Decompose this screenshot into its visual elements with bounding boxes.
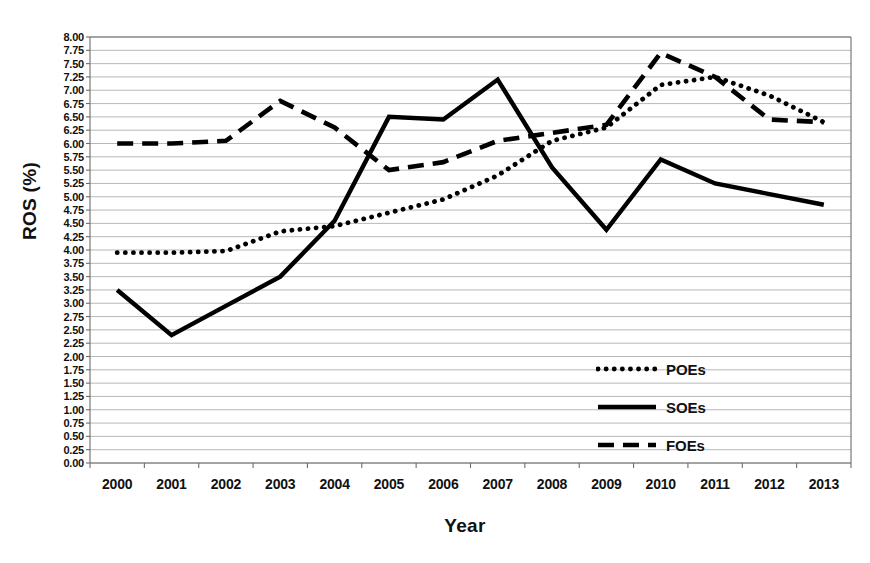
legend-label: SOEs (666, 399, 706, 416)
legend-label: FOEs (666, 437, 705, 454)
legend-item-foes[interactable]: FOEs (596, 426, 766, 464)
legend-swatch-dashed-icon (596, 438, 658, 452)
legend-label: POEs (666, 361, 706, 378)
legend-item-soes[interactable]: SOEs (596, 388, 766, 426)
data-series-group (117, 53, 824, 335)
series-line-soes (117, 80, 824, 336)
ros-line-chart: ROS (%) Year 8.007.757.507.257.006.756.5… (0, 0, 870, 563)
series-line-foes (117, 53, 824, 170)
legend-item-poes[interactable]: POEs (596, 350, 766, 388)
legend-swatch-solid-icon (596, 400, 658, 414)
legend-swatch-dotted-icon (596, 362, 658, 376)
chart-legend: POEsSOEsFOEs (596, 350, 766, 464)
plot-area (0, 0, 870, 563)
